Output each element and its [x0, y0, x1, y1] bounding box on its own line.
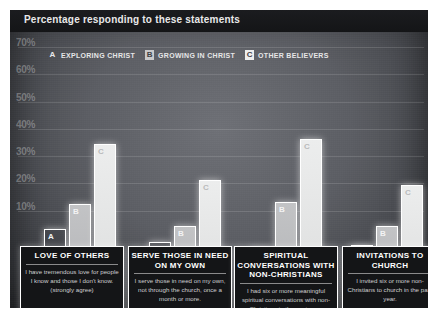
caption-box-3[interactable]: SPIRITUAL CONVERSATIONS WITH NON-CHRISTI… — [234, 246, 338, 308]
legend-item-c: C OTHER BELIEVERS — [245, 50, 329, 60]
screenshot-root: Percentage responding to these statement… — [0, 0, 438, 317]
plot-area: 70%60%50%40%30%20%10% A EXPLORING CHRIST… — [10, 32, 428, 308]
caption-title: SERVE THOSE IN NEED ON MY OWN — [129, 247, 231, 273]
legend-label-a: EXPLORING CHRIST — [61, 52, 135, 59]
page-title: Percentage responding to these statement… — [24, 14, 240, 25]
caption-title: LOVE OF OTHERS — [21, 247, 123, 264]
gridline-60 — [18, 74, 424, 75]
chart-title-bar: Percentage responding to these statement… — [10, 10, 428, 32]
bar-series-key-label: C — [203, 184, 209, 192]
caption-statement: I serve those in need on my own, not thr… — [129, 277, 231, 308]
bar-series-key-label: C — [98, 148, 104, 156]
legend-item-b: B GROWING IN CHRIST — [145, 50, 235, 60]
y-axis-tick-20: 20% — [16, 173, 35, 184]
legend-item-a: A EXPLORING CHRIST — [48, 50, 135, 60]
caption-box-4[interactable]: INVITATIONS TO CHURCHI invited six or mo… — [342, 246, 428, 308]
y-axis-tick-30: 30% — [16, 146, 35, 157]
bar-series-key-label: B — [380, 230, 386, 238]
bar-series-key-label: B — [73, 208, 79, 216]
caption-statement: I invited six or more non-Christians to … — [343, 277, 428, 308]
bar-series-key-label: B — [178, 230, 184, 238]
bar-series-key-label: B — [279, 206, 285, 214]
bar-series-key-label: C — [405, 189, 411, 197]
legend-label-b: GROWING IN CHRIST — [158, 52, 235, 59]
bar-series-key-label: C — [304, 143, 310, 151]
legend-key-b-icon: B — [145, 50, 154, 60]
bar-series-key-label: A — [48, 233, 54, 241]
caption-statement: I had six or more meaningful spiritual c… — [235, 287, 337, 308]
caption-divider — [26, 264, 118, 265]
caption-title: INVITATIONS TO CHURCH — [343, 247, 428, 273]
legend-label-c: OTHER BELIEVERS — [258, 52, 329, 59]
caption-box-1[interactable]: LOVE OF OTHERSI have tremendous love for… — [20, 246, 124, 308]
caption-divider — [348, 273, 428, 274]
y-axis-tick-50: 50% — [16, 92, 35, 103]
gridline-70 — [18, 47, 424, 48]
y-axis-tick-10: 10% — [16, 201, 35, 212]
y-axis-tick-40: 40% — [16, 119, 35, 130]
y-axis-tick-70: 70% — [16, 37, 35, 48]
y-axis-tick-60: 60% — [16, 64, 35, 75]
chart-panel: Percentage responding to these statement… — [10, 10, 428, 308]
caption-divider — [240, 283, 332, 284]
caption-statement: I have tremendous love for people I know… — [21, 268, 123, 299]
caption-divider — [134, 273, 226, 274]
legend-key-a-icon: A — [48, 50, 57, 60]
chart-legend: A EXPLORING CHRIST B GROWING IN CHRIST C… — [48, 50, 329, 60]
caption-title: SPIRITUAL CONVERSATIONS WITH NON-CHRISTI… — [235, 247, 337, 283]
legend-key-c-icon: C — [245, 50, 254, 60]
caption-box-2[interactable]: SERVE THOSE IN NEED ON MY OWNI serve tho… — [128, 246, 232, 308]
